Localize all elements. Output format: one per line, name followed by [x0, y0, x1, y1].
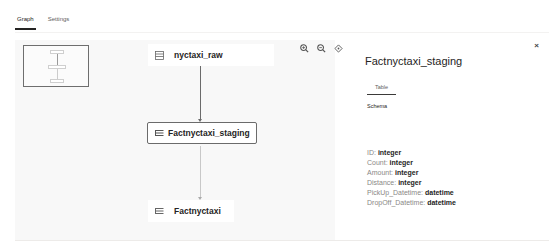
field-type: integer [395, 169, 418, 176]
table-icon [154, 128, 164, 138]
edge-staging-to-fact [200, 146, 201, 198]
node-label: Factnyctaxi_staging [168, 128, 250, 138]
fit-to-view-button[interactable] [332, 42, 344, 54]
schema-field: Distance: integer [367, 178, 456, 188]
tab-graph[interactable]: Graph [15, 14, 36, 30]
table-icon [154, 50, 164, 60]
schema-field-list: ID: integer Count: integer Amount: integ… [367, 148, 456, 208]
zoom-in-button[interactable] [298, 42, 310, 54]
schema-field: PickUp_Datetime: datetime [367, 188, 456, 198]
minimap[interactable] [23, 45, 89, 87]
table-icon [154, 206, 164, 216]
field-name: Distance: [367, 179, 398, 186]
panel-title: Factnyctaxi_staging [365, 55, 462, 67]
tabs-divider [15, 32, 549, 33]
node-factnyctaxi[interactable]: Factnyctaxi [148, 200, 234, 222]
bottom-divider [15, 240, 549, 241]
zoom-out-button[interactable] [315, 42, 327, 54]
zoom-controls [298, 42, 344, 54]
field-type: datetime [425, 189, 454, 196]
schema-field: ID: integer [367, 148, 456, 158]
tab-settings[interactable]: Settings [46, 14, 72, 30]
field-name: Amount: [367, 169, 395, 176]
tab-table[interactable]: Table [367, 82, 396, 95]
schema-field: Count: integer [367, 158, 456, 168]
edge-raw-to-staging [200, 66, 201, 120]
field-type: datetime [427, 199, 456, 206]
node-factnyctaxi-staging[interactable]: Factnyctaxi_staging [147, 122, 257, 144]
zoom-out-icon [317, 44, 326, 53]
field-type: integer [398, 179, 421, 186]
field-type: integer [390, 159, 413, 166]
field-name: PickUp_Datetime: [367, 189, 425, 196]
schema-field: Amount: integer [367, 168, 456, 178]
schema-field: DropOff_Datetime: datetime [367, 198, 456, 208]
close-button[interactable]: × [534, 41, 539, 50]
node-label: nyctaxi_raw [174, 50, 223, 60]
schema-label: Schema [367, 103, 387, 109]
details-panel: × Factnyctaxi_staging Table Schema [350, 35, 549, 240]
field-name: ID: [367, 149, 378, 156]
field-name: DropOff_Datetime: [367, 199, 427, 206]
top-tabs: Graph Settings [15, 14, 71, 30]
field-type: integer [378, 149, 401, 156]
minimap-edge [57, 54, 58, 65]
node-label: Factnyctaxi [174, 206, 221, 216]
zoom-in-icon [300, 44, 309, 53]
field-name: Count: [367, 159, 390, 166]
minimap-node [50, 79, 64, 83]
node-nyctaxi-raw[interactable]: nyctaxi_raw [148, 44, 274, 66]
fit-view-icon [334, 44, 343, 53]
